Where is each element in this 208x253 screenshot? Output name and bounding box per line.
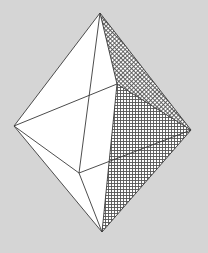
face-bottom-front-right xyxy=(102,84,191,232)
octahedron-svg xyxy=(0,0,208,253)
faces-group xyxy=(14,13,191,232)
octahedron-diagram xyxy=(0,0,208,253)
